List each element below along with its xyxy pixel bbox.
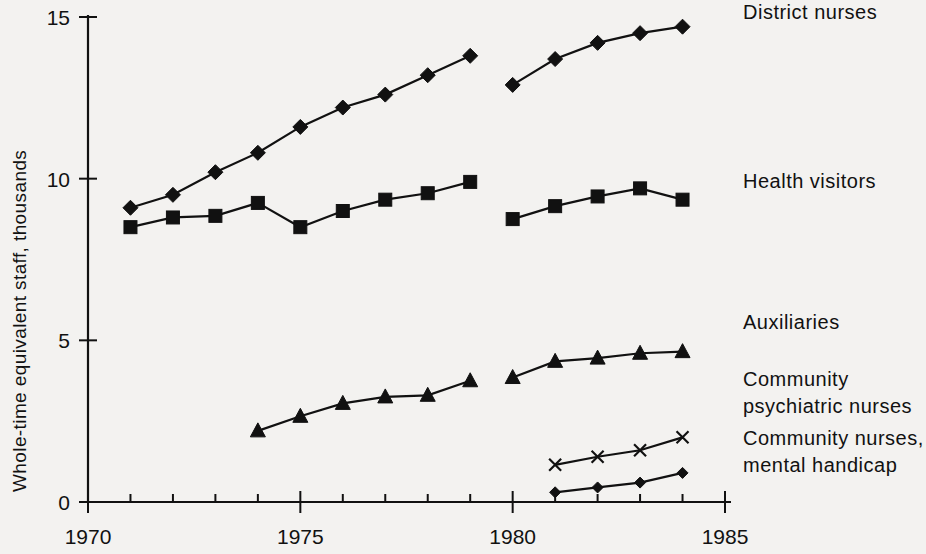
data-point-square — [379, 193, 392, 206]
data-point-square — [421, 187, 434, 200]
series-plot-area — [123, 19, 690, 498]
series-polyline — [258, 381, 470, 431]
series-label-4-line1: Community nurses, — [743, 427, 924, 449]
data-point-diamond — [123, 200, 138, 215]
data-point-diamond-small — [677, 467, 688, 478]
data-point-diamond-small — [592, 482, 603, 493]
data-point-diamond — [633, 26, 648, 41]
data-point-diamond — [548, 52, 563, 67]
data-point-square — [676, 193, 689, 206]
data-point-square — [591, 190, 604, 203]
data-point-square — [336, 205, 349, 218]
series-label-4-line2: mental handicap — [743, 454, 897, 476]
data-point-square — [464, 175, 477, 188]
series-label-3-line2: psychiatric nurses — [743, 395, 912, 417]
line-chart: 0510151970197519801985 District nursesHe… — [0, 0, 926, 554]
data-point-diamond — [250, 145, 265, 160]
data-point-diamond-small — [550, 487, 561, 498]
data-point-square — [251, 196, 264, 209]
x-tick-label: 1980 — [489, 525, 536, 548]
series-labels: District nursesHealth visitorsAuxiliarie… — [743, 1, 924, 477]
y-tick-label: 10 — [47, 168, 70, 191]
series-label-0: District nurses — [743, 1, 877, 23]
data-point-square — [294, 221, 307, 234]
y-tick-label: 15 — [47, 6, 70, 29]
data-point-diamond — [208, 165, 223, 180]
y-tick-label: 0 — [58, 491, 70, 514]
data-point-square — [124, 221, 137, 234]
data-point-triangle — [463, 373, 478, 387]
series-label-2: Auxiliaries — [743, 311, 840, 333]
data-point-square — [634, 182, 647, 195]
data-point-diamond — [505, 77, 520, 92]
data-point-square — [166, 211, 179, 224]
data-point-diamond — [675, 19, 690, 34]
y-axis-title: Whole-time equivalent staff, thousands — [9, 150, 30, 492]
data-point-diamond — [335, 100, 350, 115]
data-point-square — [506, 213, 519, 226]
series-2 — [250, 344, 690, 437]
data-point-triangle — [675, 344, 690, 358]
y-tick-label: 5 — [58, 329, 70, 352]
series-polyline — [555, 473, 682, 492]
data-point-diamond — [463, 48, 478, 63]
series-label-1: Health visitors — [743, 170, 876, 192]
data-point-diamond — [165, 187, 180, 202]
data-point-cross — [677, 431, 689, 443]
data-point-square — [549, 200, 562, 213]
series-label-3-line1: Community — [743, 368, 849, 390]
x-tick-label: 1985 — [702, 525, 749, 548]
data-point-diamond — [420, 68, 435, 83]
series-polyline — [555, 437, 682, 464]
axis-titles: Whole-time equivalent staff, thousands — [9, 150, 30, 492]
data-point-diamond — [293, 119, 308, 134]
x-tick-label: 1970 — [65, 525, 112, 548]
series-4 — [550, 467, 688, 497]
data-point-diamond-small — [635, 477, 646, 488]
x-tick-label: 1975 — [277, 525, 324, 548]
data-point-square — [209, 209, 222, 222]
series-0 — [123, 19, 690, 215]
series-1 — [124, 175, 689, 233]
data-point-diamond — [378, 87, 393, 102]
chart-page: 0510151970197519801985 District nursesHe… — [0, 0, 926, 554]
data-point-diamond — [590, 35, 605, 50]
axes: 0510151970197519801985 — [47, 6, 749, 548]
series-3 — [549, 431, 688, 470]
